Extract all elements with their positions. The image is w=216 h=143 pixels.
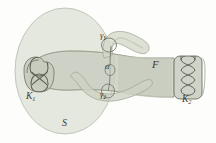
label-curve-gamma1: γ1 bbox=[100, 31, 106, 40]
label-surface-s: S bbox=[62, 118, 67, 128]
topology-figure: S F K1 K2 γ1 γ2 α bbox=[0, 0, 216, 143]
gamma1-tube bbox=[103, 31, 149, 58]
label-knot-k2-sub: 2 bbox=[188, 98, 191, 105]
figure-canvas bbox=[0, 0, 216, 143]
curve-gamma1-group bbox=[102, 31, 150, 58]
label-knot-k2: K2 bbox=[182, 95, 191, 105]
label-knot-k1-sub: 1 bbox=[32, 95, 35, 102]
knot-k2-group bbox=[174, 56, 202, 100]
label-knot-k1: K1 bbox=[26, 92, 35, 102]
label-curve-gamma2: γ2 bbox=[100, 90, 106, 99]
label-gamma2-sub: 2 bbox=[103, 94, 106, 100]
knot-k2-box bbox=[174, 56, 202, 99]
label-arc-alpha: α bbox=[105, 62, 109, 71]
label-fiber-f: F bbox=[152, 59, 159, 70]
label-gamma1-sub: 1 bbox=[103, 35, 106, 41]
